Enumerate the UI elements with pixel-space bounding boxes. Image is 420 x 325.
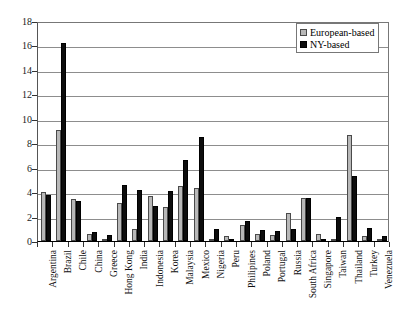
x-tick-mark — [68, 242, 69, 247]
bar-group — [313, 23, 328, 241]
x-tick-mark — [37, 242, 38, 247]
x-tick-label: Argentina — [49, 250, 59, 288]
x-tick-label: Nigeria — [217, 250, 227, 279]
x-tick-label: Portugal — [278, 250, 288, 282]
bar-group — [69, 23, 84, 241]
legend-label: NY-based — [310, 39, 349, 50]
x-tick-label: Philipines — [248, 250, 258, 288]
x-tick-mark — [98, 242, 99, 247]
legend-swatch-icon — [300, 41, 307, 48]
x-tick-mark — [297, 242, 298, 247]
legend-label: European-based — [310, 27, 374, 38]
x-tick-mark — [343, 242, 344, 247]
x-tick-mark — [267, 242, 268, 247]
bar-group — [375, 23, 390, 241]
x-tick-label: China — [95, 250, 105, 273]
bar-group — [145, 23, 160, 241]
x-tick-label: Malaysia — [186, 250, 196, 285]
y-tick-label: 2 — [8, 213, 32, 223]
bar-group — [283, 23, 298, 241]
y-tick-label: 10 — [8, 115, 32, 125]
x-tick-label: Thailand — [355, 250, 365, 284]
x-tick-label: Poland — [263, 250, 273, 276]
x-tick-label: Hong Kong — [125, 250, 135, 295]
x-tick-mark — [389, 242, 390, 247]
bar-group — [191, 23, 206, 241]
bar-group — [99, 23, 114, 241]
bar-group — [329, 23, 344, 241]
x-tick-mark — [358, 242, 359, 247]
bar-group — [206, 23, 221, 241]
x-tick-mark — [144, 242, 145, 247]
bar — [92, 232, 97, 241]
bar — [199, 137, 204, 241]
bar-group — [298, 23, 313, 241]
x-tick-label: South Africa — [309, 250, 319, 298]
x-tick-mark — [328, 242, 329, 247]
bar — [229, 239, 234, 241]
bar — [137, 190, 142, 241]
y-tick-label: 18 — [8, 17, 32, 27]
x-tick-label: Brazil — [64, 250, 74, 273]
bar — [183, 160, 188, 241]
chart-legend: European-basedNY-based — [296, 23, 379, 53]
bar-group — [160, 23, 175, 241]
bar-group — [115, 23, 130, 241]
bar — [352, 176, 357, 241]
plot-area — [37, 22, 389, 242]
bar-group — [84, 23, 99, 241]
bar-group — [252, 23, 267, 241]
bar — [46, 195, 51, 241]
y-tick-label: 0 — [8, 237, 32, 247]
bar-group — [176, 23, 191, 241]
bar-chart: 024681012141618 ArgentinaBrazilChileChin… — [0, 0, 420, 325]
bar — [245, 221, 250, 241]
bar-group — [38, 23, 53, 241]
bar — [367, 228, 372, 241]
x-tick-label: Indonesia — [156, 250, 166, 287]
bar — [291, 229, 296, 241]
x-tick-mark — [129, 242, 130, 247]
x-tick-mark — [83, 242, 84, 247]
bar — [76, 201, 81, 241]
bar-group — [130, 23, 145, 241]
x-tick-label: Korea — [171, 250, 181, 273]
x-tick-mark — [236, 242, 237, 247]
x-tick-mark — [159, 242, 160, 247]
legend-item: European-based — [300, 26, 374, 38]
y-tick-label: 12 — [8, 90, 32, 100]
legend-swatch-icon — [300, 29, 307, 36]
bar — [61, 43, 66, 241]
x-tick-mark — [221, 242, 222, 247]
y-tick-label: 4 — [8, 188, 32, 198]
x-tick-label: Greece — [110, 250, 120, 277]
x-tick-label: Venezuela — [385, 250, 395, 289]
x-tick-mark — [52, 242, 53, 247]
x-tick-label: Chile — [79, 250, 89, 271]
y-tick-label: 14 — [8, 66, 32, 76]
y-tick-label: 6 — [8, 164, 32, 174]
x-tick-label: Singapore — [324, 250, 334, 289]
bar — [321, 239, 326, 241]
bar — [107, 235, 112, 241]
bar-group — [222, 23, 237, 241]
bar — [336, 217, 341, 241]
bar-group — [344, 23, 359, 241]
x-tick-label: Turkey — [370, 250, 380, 277]
bar — [153, 206, 158, 241]
x-tick-mark — [312, 242, 313, 247]
x-tick-mark — [374, 242, 375, 247]
y-tick-label: 8 — [8, 139, 32, 149]
bar — [214, 229, 219, 241]
bar-group — [53, 23, 68, 241]
bar — [168, 191, 173, 241]
x-tick-mark — [205, 242, 206, 247]
x-tick-label: Taiwan — [339, 250, 349, 278]
x-tick-mark — [175, 242, 176, 247]
bar — [275, 231, 280, 241]
x-tick-label: Peru — [232, 250, 242, 267]
bar — [382, 236, 387, 241]
x-tick-mark — [114, 242, 115, 247]
y-tick-label: 16 — [8, 41, 32, 51]
x-tick-mark — [190, 242, 191, 247]
